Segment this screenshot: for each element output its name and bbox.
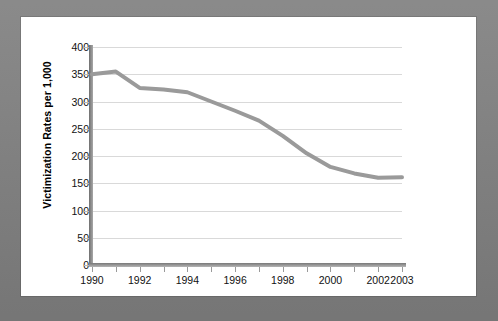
chart-canvas: Victimization Rates per 1,000 4003503002… xyxy=(21,17,476,296)
series-line-victimization-rate xyxy=(21,17,476,296)
line-chart: Victimization Rates per 1,000 4003503002… xyxy=(21,17,476,296)
image-border-frame: Victimization Rates per 1,000 4003503002… xyxy=(0,0,498,321)
